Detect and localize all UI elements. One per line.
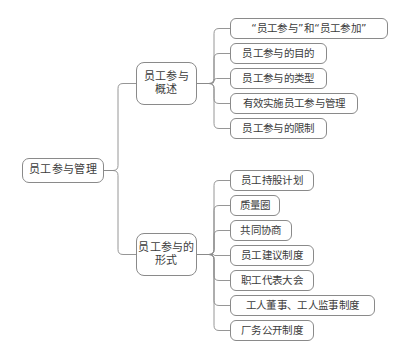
leaf-node-forms-员工持股计划[interactable]: 员工持股计划 xyxy=(230,170,314,191)
leaf-node-forms-质量圈[interactable]: 质量圈 xyxy=(230,195,280,216)
leaf-node-forms-职工代表大会[interactable]: 职工代表大会 xyxy=(230,270,314,291)
connector xyxy=(197,181,230,255)
leaf-node-forms-工人董事工人监事制度[interactable]: 工人董事、工人监事制度 xyxy=(230,295,375,316)
connector xyxy=(197,255,230,306)
root-node[interactable]: 员工参与管理 xyxy=(22,158,104,183)
leaf-node-overview-员工参与和员工参加[interactable]: “员工参与”和“员工参加” xyxy=(230,18,388,39)
branch-node-forms[interactable]: 员工参与的 形式 xyxy=(136,233,197,276)
leaf-node-forms-共同协商[interactable]: 共同协商 xyxy=(230,220,292,241)
connector xyxy=(197,54,230,84)
branch-node-overview[interactable]: 员工参与 概述 xyxy=(136,62,197,105)
connector xyxy=(197,29,230,84)
mindmap-canvas: 员工参与管理员工参与 概述“员工参与”和“员工参加”员工参与的目的员工参与的类型… xyxy=(0,0,396,364)
connector xyxy=(104,171,136,255)
connector xyxy=(197,206,230,255)
connector xyxy=(197,231,230,255)
leaf-node-overview-员工参与的目的[interactable]: 员工参与的目的 xyxy=(230,43,327,64)
leaf-node-overview-有效实施员工参与管理[interactable]: 有效实施员工参与管理 xyxy=(230,93,358,114)
leaf-node-forms-厂务公开制度[interactable]: 厂务公开制度 xyxy=(230,320,314,341)
leaf-node-forms-员工建议制度[interactable]: 员工建议制度 xyxy=(230,245,314,266)
connector xyxy=(197,255,230,331)
connector xyxy=(197,84,230,129)
leaf-node-overview-员工参与的限制[interactable]: 员工参与的限制 xyxy=(230,118,327,139)
leaf-node-overview-员工参与的类型[interactable]: 员工参与的类型 xyxy=(230,68,327,89)
connector xyxy=(104,84,136,171)
